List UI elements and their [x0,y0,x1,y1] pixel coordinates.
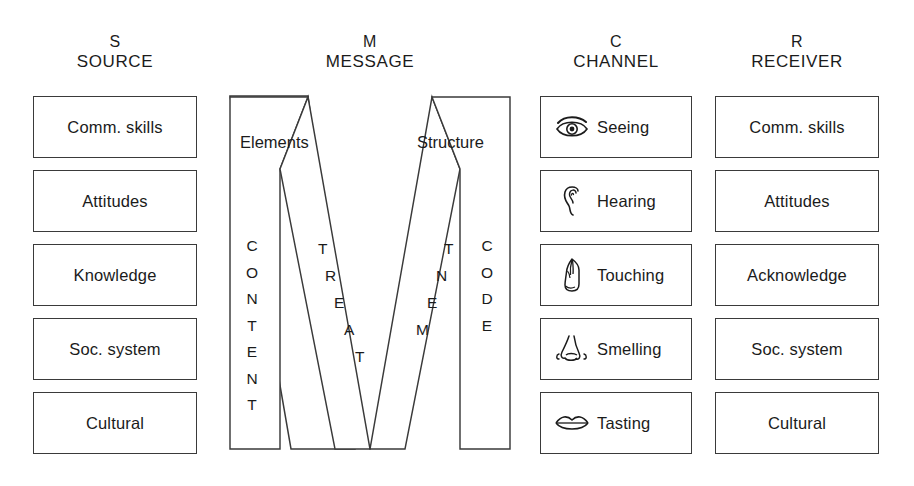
column-letter-message: M [288,33,452,52]
dchar-r: R [325,267,336,285]
box-label: Cultural [768,414,826,433]
source-item-soc-system[interactable]: Soc. system [33,318,197,380]
message-vertical-word-content: C O N T E N T [246,238,259,424]
box-label: Tasting [597,414,650,433]
box-label: Attitudes [82,192,148,211]
source-item-cultural[interactable]: Cultural [33,392,197,454]
box-label: Seeing [597,118,649,137]
vchar-c: C [481,238,493,254]
channel-item-hearing[interactable]: Hearing [540,170,692,232]
message-vertical-word-code: C O D E [481,238,494,344]
vchar-t: T [247,318,257,334]
dchar-e: E [427,294,437,312]
dchar-t: T [318,240,327,258]
message-label-structure: Structure [417,133,484,152]
box-label: Attitudes [764,192,830,211]
ear-icon [553,184,591,218]
column-header-channel: C CHANNEL [540,33,692,72]
source-item-knowledge[interactable]: Knowledge [33,244,197,306]
box-label: Acknowledge [747,266,847,285]
hand-icon [553,258,591,292]
vchar-n: N [246,291,258,307]
box-label: Knowledge [74,266,157,285]
vchar-n2: N [246,371,258,387]
channel-item-touching[interactable]: Touching [540,244,692,306]
box-label: Smelling [597,340,661,359]
column-header-source: S SOURCE [33,33,197,72]
column-word-channel: CHANNEL [540,52,692,72]
box-label: Comm. skills [67,118,162,137]
dchar-m: M [416,321,429,339]
box-label: Soc. system [69,340,161,359]
box-label: Cultural [86,414,144,433]
vchar-o: O [246,265,259,281]
channel-item-tasting[interactable]: Tasting [540,392,692,454]
message-diagonal-word-treat: T R E A T [318,240,388,355]
dchar-t: T [444,240,453,258]
column-word-receiver: RECEIVER [715,52,879,72]
vchar-e: E [482,318,493,334]
dchar-a: A [344,321,354,339]
receiver-item-attitudes[interactable]: Attitudes [715,170,879,232]
vchar-d: D [481,291,493,307]
column-letter-receiver: R [715,33,879,52]
message-diagonal-word-tnem: T N E M [410,240,480,355]
receiver-item-comm-skills[interactable]: Comm. skills [715,96,879,158]
vchar-e: E [247,344,258,360]
vchar-o: O [481,265,494,281]
eye-icon [553,110,591,144]
box-label: Comm. skills [749,118,844,137]
box-label: Touching [597,266,664,285]
column-word-source: SOURCE [33,52,197,72]
box-label: Soc. system [751,340,843,359]
receiver-item-soc-system[interactable]: Soc. system [715,318,879,380]
column-header-message: M MESSAGE [288,33,452,72]
vchar-c: C [246,238,258,254]
channel-item-smelling[interactable]: Smelling [540,318,692,380]
diagram-canvas: S SOURCE Comm. skills Attitudes Knowledg… [0,0,914,486]
channel-item-seeing[interactable]: Seeing [540,96,692,158]
column-word-message: MESSAGE [288,52,452,72]
column-header-receiver: R RECEIVER [715,33,879,72]
column-letter-source: S [33,33,197,52]
source-item-comm-skills[interactable]: Comm. skills [33,96,197,158]
lips-icon [553,406,591,440]
box-label: Hearing [597,192,656,211]
column-letter-channel: C [540,33,692,52]
dchar-n: N [436,267,447,285]
receiver-item-cultural[interactable]: Cultural [715,392,879,454]
message-label-elements: Elements [240,133,309,152]
source-item-attitudes[interactable]: Attitudes [33,170,197,232]
vchar-t2: T [247,397,257,413]
receiver-item-acknowledge[interactable]: Acknowledge [715,244,879,306]
dchar-e: E [334,294,344,312]
nose-icon [553,332,591,366]
dchar-t2: T [355,348,364,366]
